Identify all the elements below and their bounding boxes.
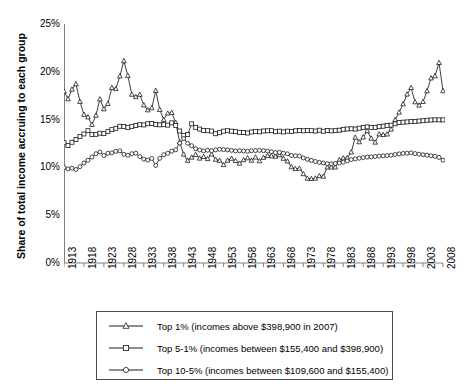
- x-tick-label: 1993: [387, 247, 397, 269]
- x-tick-label: 1948: [208, 247, 218, 269]
- x-tick-label: 1998: [407, 247, 417, 269]
- x-tick-label: 1968: [287, 247, 297, 269]
- x-tick-label: 1978: [327, 247, 337, 269]
- x-tick-label: 2003: [427, 247, 437, 269]
- x-tick-label: 1918: [88, 247, 98, 269]
- legend-item-top-5-1: Top 5-1% (incomes between $155,400 and $…: [97, 337, 392, 359]
- x-tick-label: 1963: [267, 247, 277, 269]
- chart-figure: Share of total income accruing to each g…: [0, 0, 464, 392]
- legend-marker-triangle-icon: [107, 319, 151, 333]
- legend-label: Top 5-1% (incomes between $155,400 and $…: [157, 343, 383, 354]
- legend-marker-square-icon: [107, 341, 151, 355]
- legend-item-top-1: Top 1% (incomes above $398,900 in 2007): [97, 315, 392, 337]
- x-tick-label: 2008: [447, 247, 457, 269]
- x-tick-label: 1958: [248, 247, 258, 269]
- x-tick-label: 1938: [168, 247, 178, 269]
- legend-label: Top 1% (incomes above $398,900 in 2007): [157, 321, 338, 332]
- chart-legend: Top 1% (incomes above $398,900 in 2007) …: [96, 311, 393, 380]
- x-tick-label: 1973: [307, 247, 317, 269]
- x-tick-label: 1988: [367, 247, 377, 269]
- x-tick-label: 1933: [148, 247, 158, 269]
- x-tick-label: 1928: [128, 247, 138, 269]
- x-tick-label: 1923: [108, 247, 118, 269]
- legend-item-top-10-5: Top 10-5% (incomes between $109,600 and …: [97, 359, 392, 381]
- x-tick-label: 1953: [228, 247, 238, 269]
- x-tick-label: 1943: [188, 247, 198, 269]
- legend-marker-circle-icon: [107, 363, 151, 377]
- legend-label: Top 10-5% (incomes between $109,600 and …: [157, 365, 388, 376]
- x-tick-label: 1913: [68, 247, 78, 269]
- x-tick-label: 1983: [347, 247, 357, 269]
